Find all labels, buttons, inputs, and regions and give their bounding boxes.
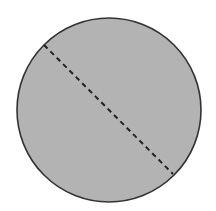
diagram-canvas [0,0,216,211]
circle-diagram [0,0,216,211]
